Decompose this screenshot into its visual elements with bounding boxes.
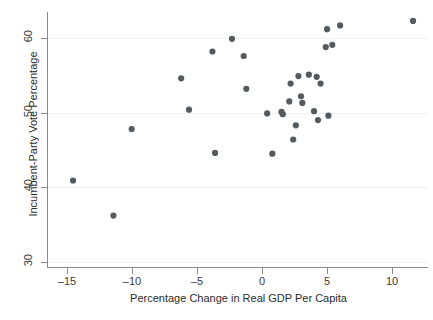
- x-tick-label: –5: [177, 276, 217, 287]
- data-point: [212, 150, 218, 156]
- x-tick-mark: [197, 268, 198, 274]
- data-point: [314, 74, 320, 80]
- data-point: [323, 44, 329, 50]
- data-point: [337, 22, 343, 28]
- x-tick-label: –15: [47, 276, 87, 287]
- data-point: [243, 86, 249, 92]
- data-points-layer: [47, 12, 430, 267]
- scatter-plot-figure: 30405060 –15–10–50510 Percentage Change …: [0, 0, 433, 320]
- plot-area: [47, 12, 430, 267]
- data-point: [295, 73, 301, 79]
- x-tick-label: 10: [372, 276, 412, 287]
- data-point: [229, 36, 235, 42]
- data-point: [241, 53, 247, 59]
- data-point: [290, 136, 296, 142]
- data-point: [293, 122, 299, 128]
- data-point: [315, 117, 321, 123]
- y-axis-title: Incumbent-Party Vote Percentage: [27, 19, 39, 249]
- x-tick-label: –10: [112, 276, 152, 287]
- data-point: [269, 151, 275, 157]
- data-point: [324, 26, 330, 32]
- data-point: [288, 80, 294, 86]
- data-point: [311, 108, 317, 114]
- data-point: [317, 80, 323, 86]
- data-point: [306, 72, 312, 78]
- data-point: [110, 212, 116, 218]
- x-tick-label: 5: [307, 276, 347, 287]
- data-point: [325, 113, 331, 119]
- data-point: [264, 110, 270, 116]
- data-point: [298, 93, 304, 99]
- x-tick-label: 0: [242, 276, 282, 287]
- data-point: [209, 48, 215, 54]
- data-point: [286, 98, 292, 104]
- x-tick-mark: [327, 268, 328, 274]
- data-point: [329, 42, 335, 48]
- data-point: [178, 75, 184, 81]
- data-point: [280, 111, 286, 117]
- x-axis-title: Percentage Change in Real GDP Per Capita: [47, 292, 430, 304]
- x-tick-mark: [67, 268, 68, 274]
- data-point: [410, 18, 416, 24]
- x-tick-mark: [392, 268, 393, 274]
- x-axis-spine: [47, 267, 428, 268]
- data-point: [186, 107, 192, 113]
- data-point: [299, 100, 305, 106]
- data-point: [129, 126, 135, 132]
- y-tick-label: 30: [23, 254, 34, 290]
- x-tick-mark: [262, 268, 263, 274]
- x-tick-mark: [132, 268, 133, 274]
- data-point: [70, 177, 76, 183]
